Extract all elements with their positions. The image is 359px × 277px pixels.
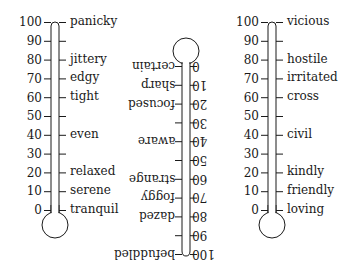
mood-label: strange <box>129 173 175 185</box>
mood-label: relaxed <box>70 165 115 177</box>
mood-label: cross <box>287 90 319 102</box>
scale-number: 30 <box>229 148 259 160</box>
scale-number: 20 <box>229 167 259 179</box>
scale-number: 90 <box>12 35 42 47</box>
scale-number: 80 <box>12 54 42 66</box>
left-thermometer-icon <box>42 22 68 238</box>
scale-number: 100 <box>12 16 42 28</box>
scale-number: 40 <box>12 129 42 141</box>
scale-number: 80 <box>229 54 259 66</box>
scale-number: 0 <box>229 204 259 216</box>
mood-label: tight <box>70 90 99 102</box>
scale-number: 50 <box>229 110 259 122</box>
scale-number: 10 <box>229 185 259 197</box>
mood-label: loving <box>287 203 324 215</box>
scale-number: 30 <box>12 148 42 160</box>
mood-label: friendly <box>287 184 334 196</box>
mood-label: edgy <box>70 71 99 83</box>
mood-label: panicky <box>70 15 117 27</box>
scale-number: 20 <box>12 167 42 179</box>
mood-thermometers-diagram: 100 90 80 70 60 50 40 30 20 10 0 panicky… <box>0 0 359 277</box>
mood-label: even <box>70 128 99 140</box>
mood-label: foggy <box>141 191 175 203</box>
right-thermometer-icon <box>259 22 285 238</box>
scale-number: 50 <box>192 154 222 166</box>
scale-number: 10 <box>192 79 222 91</box>
scale-number: 80 <box>192 210 222 222</box>
scale-number: 60 <box>12 92 42 104</box>
scale-number: 60 <box>192 173 222 185</box>
scale-number: 0 <box>12 204 42 216</box>
mood-label: certain <box>132 60 175 72</box>
scale-number: 30 <box>192 117 222 129</box>
scale-number: 40 <box>192 135 222 147</box>
mood-label: jittery <box>70 53 107 65</box>
mood-label: dazed <box>139 210 175 222</box>
mood-label: serene <box>70 184 111 196</box>
mood-label: vicious <box>287 15 329 27</box>
mood-label: befuddled <box>114 248 175 260</box>
mood-label: tranquil <box>70 203 119 215</box>
mood-label: aware <box>138 135 175 147</box>
scale-number: 90 <box>229 35 259 47</box>
mood-label: focused <box>128 98 175 110</box>
scale-number: 90 <box>192 229 222 241</box>
mood-label: sharp <box>141 79 175 91</box>
scale-number: 0 <box>192 60 222 72</box>
mood-label: civil <box>287 128 312 140</box>
scale-number: 50 <box>12 110 42 122</box>
scale-number: 10 <box>12 185 42 197</box>
mood-label: irritated <box>287 71 338 83</box>
scale-number: 70 <box>12 73 42 85</box>
scale-number: 60 <box>229 92 259 104</box>
mood-label: hostile <box>287 53 328 65</box>
scale-number: 100 <box>192 248 222 260</box>
mood-label: kindly <box>287 165 324 177</box>
scale-number: 40 <box>229 129 259 141</box>
scale-number: 70 <box>192 191 222 203</box>
scale-number: 70 <box>229 73 259 85</box>
scale-number: 20 <box>192 98 222 110</box>
scale-number: 100 <box>229 16 259 28</box>
